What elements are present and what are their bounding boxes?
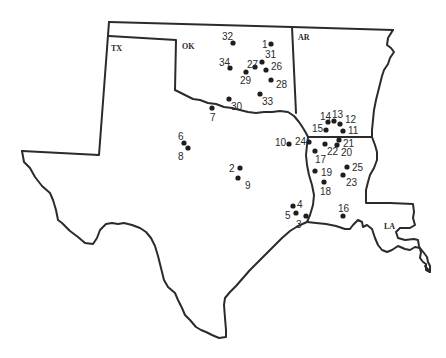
site-dot (323, 127, 328, 132)
site-marker: 30 (226, 96, 242, 112)
site-label: 32 (222, 31, 234, 42)
site-marker: 29 (240, 69, 252, 86)
site-label: 21 (343, 138, 355, 149)
site-label: 26 (271, 61, 283, 72)
site-dot (263, 67, 268, 72)
state-borders (22, 22, 430, 338)
site-dot (243, 69, 248, 74)
site-label: 10 (275, 137, 287, 148)
site-marker: 28 (268, 77, 287, 90)
site-dot (259, 59, 264, 64)
site-marker: 7 (209, 105, 216, 123)
site-label: 33 (262, 96, 274, 107)
site-dot (306, 139, 311, 144)
site-label: 5 (285, 210, 291, 221)
site-marker: 4 (290, 199, 303, 210)
site-label: 2 (229, 163, 235, 174)
site-marker: 13 (331, 109, 343, 124)
site-label: 28 (276, 79, 288, 90)
site-dot (337, 121, 342, 126)
site-dot (185, 145, 190, 150)
site-label: 24 (295, 136, 307, 147)
site-label: 15 (312, 123, 324, 134)
state-label-ok: OK (182, 42, 195, 51)
site-marker: 9 (235, 175, 251, 191)
site-dot (336, 137, 341, 142)
site-label: 31 (265, 49, 277, 60)
site-dot (235, 175, 240, 180)
site-marker: 21 (336, 137, 354, 149)
site-dot (321, 179, 326, 184)
site-label: 14 (320, 111, 332, 122)
site-markers: 1234567891011121314151617181920212223242… (178, 31, 364, 230)
site-label: 25 (352, 162, 364, 173)
state-label-ar: AR (298, 33, 310, 42)
site-marker: 6 (178, 131, 187, 146)
site-dot (286, 141, 291, 146)
site-marker: 26 (263, 61, 282, 73)
site-label: 22 (327, 146, 339, 157)
site-dot (268, 41, 273, 46)
site-dot (340, 172, 345, 177)
site-marker: 34 (219, 57, 233, 71)
site-marker: 10 (275, 137, 292, 148)
site-dot (340, 128, 345, 133)
site-marker: 15 (312, 123, 329, 134)
site-label: 16 (338, 203, 350, 214)
site-marker: 33 (257, 91, 273, 107)
site-marker: 11 (340, 125, 358, 136)
regional-site-map: TX OK AR LA 1234567891011121314151617181… (0, 0, 446, 358)
site-dot (290, 203, 295, 208)
site-dot (303, 213, 308, 218)
state-label-la: LA (384, 222, 395, 231)
site-marker: 2 (229, 163, 243, 174)
mississippi-river-boundary (366, 30, 430, 272)
site-label: 18 (320, 186, 332, 197)
northern-boundary (109, 22, 393, 30)
site-label: 17 (315, 154, 327, 165)
site-label: 34 (219, 57, 231, 68)
site-dot (312, 168, 317, 173)
site-label: 12 (345, 114, 357, 125)
site-marker: 19 (312, 167, 332, 178)
site-label: 19 (321, 167, 333, 178)
site-label: 8 (178, 151, 184, 162)
arkansas-west-boundary (292, 27, 296, 113)
site-marker: 23 (340, 172, 357, 188)
site-marker: 16 (338, 203, 350, 219)
rio-grande-boundary (22, 151, 307, 338)
site-label: 6 (178, 131, 184, 142)
site-dot (344, 164, 349, 169)
site-label: 13 (332, 109, 344, 120)
site-label: 23 (346, 177, 358, 188)
site-dot (209, 105, 214, 110)
site-label: 9 (245, 180, 251, 191)
site-label: 4 (297, 199, 303, 210)
site-marker: 17 (312, 148, 326, 165)
site-marker: 32 (222, 31, 236, 46)
site-label: 29 (240, 75, 252, 86)
site-dot (312, 148, 317, 153)
red-river-boundary (175, 90, 308, 137)
site-dot (268, 77, 273, 82)
texas-west-boundary (22, 22, 109, 155)
site-marker: 27 (247, 59, 259, 70)
state-label-tx: TX (111, 44, 122, 53)
site-label: 3 (296, 219, 302, 230)
site-label: 7 (210, 112, 216, 123)
site-marker: 18 (320, 179, 332, 197)
site-marker: 25 (344, 162, 363, 173)
site-label: 11 (348, 125, 359, 136)
site-marker: 8 (178, 145, 191, 162)
site-dot (293, 210, 298, 215)
site-dot (340, 213, 345, 218)
site-label: 27 (247, 59, 259, 70)
site-dot (237, 165, 242, 170)
site-label: 30 (231, 101, 243, 112)
